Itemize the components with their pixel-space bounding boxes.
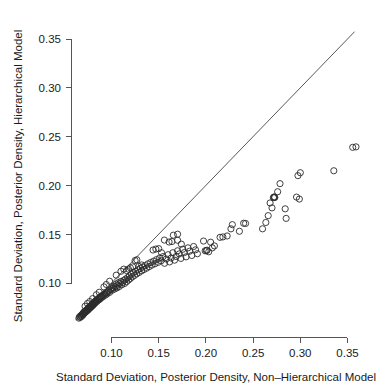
identity-reference-line — [76, 32, 355, 320]
scatter-plot-figure: 0.35 0.30 0.25 0.20 0.15 0.10 Standard D… — [0, 0, 392, 392]
x-tick-label: 0.10 — [100, 347, 122, 359]
data-point — [263, 219, 269, 225]
data-point — [259, 226, 265, 232]
y-axis: 0.35 0.30 0.25 0.20 0.15 0.10 Standard D… — [12, 30, 72, 323]
x-tick-label: 0.25 — [242, 347, 264, 359]
x-tick-label: 0.35 — [336, 347, 358, 359]
x-axis-title: Standard Deviation, Posterior Density, N… — [56, 371, 376, 383]
x-axis-tick-labels: 0.10 0.15 0.20 0.25 0.30 0.35 — [100, 347, 358, 359]
data-points-group — [76, 144, 359, 321]
y-tick-label: 0.20 — [39, 180, 61, 192]
data-point — [174, 231, 180, 237]
data-point — [228, 226, 234, 232]
data-point — [283, 215, 289, 221]
data-point — [275, 189, 281, 195]
data-point — [265, 213, 271, 219]
y-tick-label: 0.10 — [39, 277, 61, 289]
y-axis-ticks — [66, 39, 72, 283]
data-point — [113, 272, 119, 278]
data-point — [229, 222, 235, 228]
data-point — [200, 238, 206, 244]
y-tick-label: 0.30 — [39, 82, 61, 94]
y-tick-label: 0.35 — [39, 33, 61, 45]
data-point — [170, 232, 176, 238]
data-point — [206, 249, 212, 255]
x-tick-label: 0.20 — [195, 347, 217, 359]
data-point — [224, 233, 230, 239]
x-axis-ticks — [112, 338, 348, 344]
data-point — [194, 251, 200, 257]
y-tick-label: 0.15 — [39, 229, 61, 241]
x-tick-label: 0.15 — [148, 347, 170, 359]
data-point — [174, 237, 180, 243]
data-point — [277, 181, 283, 187]
x-axis: 0.10 0.15 0.20 0.25 0.30 0.35 Standard D… — [56, 338, 376, 384]
data-point — [282, 206, 288, 212]
x-tick-label: 0.30 — [289, 347, 311, 359]
plot-canvas: 0.35 0.30 0.25 0.20 0.15 0.10 Standard D… — [0, 0, 392, 392]
y-axis-tick-labels: 0.35 0.30 0.25 0.20 0.15 0.10 — [39, 33, 61, 289]
y-tick-label: 0.25 — [39, 131, 61, 143]
data-point — [236, 228, 242, 234]
data-point — [331, 168, 337, 174]
y-axis-title: Standard Deviation, Posterior Density, H… — [12, 30, 24, 323]
